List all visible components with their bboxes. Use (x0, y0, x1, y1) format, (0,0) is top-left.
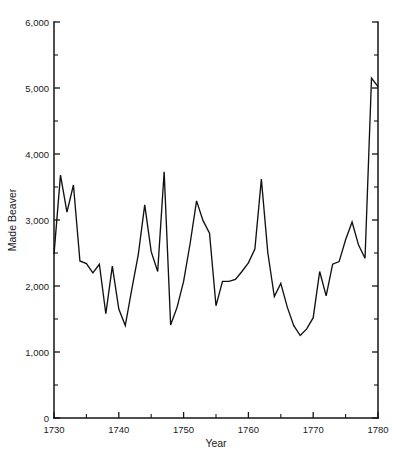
chart-figure: 01,0002,0003,0004,0005,0006,000 17301740… (0, 0, 395, 452)
x-tick-label: 1770 (303, 424, 324, 435)
x-tick-label: 1730 (43, 424, 64, 435)
y-tick-label: 2,000 (25, 281, 49, 292)
y-tick-label: 5,000 (25, 83, 49, 94)
x-axis-ticks (54, 412, 378, 418)
x-tick-label: 1780 (367, 424, 388, 435)
x-tick-label: 1740 (108, 424, 129, 435)
data-series-line (54, 78, 378, 335)
y-tick-label: 4,000 (25, 149, 49, 160)
x-tick-label: 1760 (238, 424, 259, 435)
x-axis-title: Year (205, 437, 227, 449)
y-axis-tick-labels: 01,0002,0003,0004,0005,0006,000 (25, 17, 49, 424)
y-axis-ticks (54, 22, 378, 418)
x-tick-label: 1750 (173, 424, 194, 435)
plot-axes (54, 22, 378, 418)
x-axis-tick-labels: 173017401750176017701780 (43, 424, 388, 435)
line-chart-svg: 01,0002,0003,0004,0005,0006,000 17301740… (0, 0, 395, 452)
y-tick-label: 0 (44, 413, 49, 424)
y-tick-label: 6,000 (25, 17, 49, 28)
y-tick-label: 1,000 (25, 347, 49, 358)
y-tick-label: 3,000 (25, 215, 49, 226)
y-axis-title: Made Beaver (6, 188, 18, 251)
